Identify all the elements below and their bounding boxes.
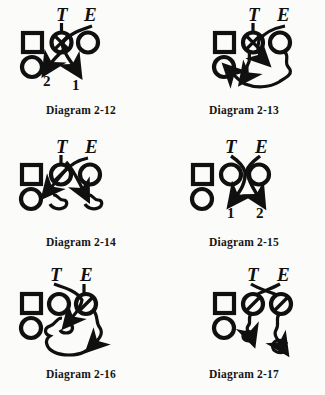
lower-left-circle bbox=[21, 189, 41, 209]
right-slash-circle bbox=[271, 294, 291, 314]
center-circle bbox=[49, 294, 69, 314]
guard-square bbox=[22, 165, 41, 184]
label-T: T bbox=[247, 264, 260, 285]
center-slash-circle bbox=[243, 294, 263, 314]
diagram-2-12: T E 2 1 Diagram 2-12 bbox=[0, 0, 162, 131]
path-E-wavy-outer bbox=[93, 310, 101, 344]
guard-square bbox=[22, 294, 41, 313]
label-T: T bbox=[248, 4, 261, 25]
diagram-2-17-figure: T E bbox=[163, 264, 325, 364]
lower-left-circle bbox=[21, 318, 41, 338]
label-E: E bbox=[276, 4, 290, 25]
label-E: E bbox=[254, 136, 268, 157]
gap-number-2: 2 bbox=[43, 73, 51, 89]
lower-left-circle bbox=[192, 189, 212, 209]
right-circle bbox=[249, 165, 269, 185]
diagram-2-13-caption: Diagram 2-13 bbox=[163, 104, 325, 116]
guard-square bbox=[215, 33, 234, 52]
right-circle bbox=[78, 33, 98, 53]
diagram-2-17: T E Diagram 2-17 bbox=[163, 264, 325, 395]
label-E: E bbox=[84, 136, 98, 157]
label-E: E bbox=[79, 264, 93, 285]
guard-square bbox=[215, 294, 234, 313]
right-circle bbox=[270, 33, 290, 53]
label-T: T bbox=[50, 264, 63, 285]
gap-number-1: 1 bbox=[227, 205, 235, 221]
gap-number-2: 2 bbox=[256, 205, 264, 221]
label-E: E bbox=[83, 4, 97, 25]
diagram-2-15-caption: Diagram 2-15 bbox=[163, 236, 325, 248]
gap-number-1: 1 bbox=[72, 77, 80, 93]
guard-square bbox=[23, 33, 42, 52]
lower-left-circle bbox=[22, 57, 42, 77]
diagram-2-12-figure: T E 2 1 bbox=[0, 0, 162, 100]
label-T: T bbox=[56, 4, 69, 25]
diagram-2-15-figure: T E 1 2 bbox=[163, 132, 325, 232]
diagram-2-13-figure: T E bbox=[163, 0, 325, 100]
diagram-2-12-caption: Diagram 2-12 bbox=[0, 104, 162, 116]
path-T-loop-left bbox=[243, 332, 253, 341]
path-wavy-inner bbox=[60, 322, 73, 333]
diagram-2-16-caption: Diagram 2-16 bbox=[0, 368, 162, 380]
label-T: T bbox=[56, 136, 69, 157]
center-circle bbox=[221, 165, 241, 185]
diagram-2-16: T E Diagram 2-16 bbox=[0, 264, 162, 395]
diagram-2-16-figure: T E bbox=[0, 264, 162, 364]
path-E-wavy-tail bbox=[85, 195, 102, 209]
path-T-wavy-tail bbox=[50, 195, 67, 209]
path-E-to-2 bbox=[247, 156, 260, 198]
diagram-2-14: T E Diagram 2-14 bbox=[0, 132, 162, 263]
diagram-2-15: T E 1 2 Diagram 2-15 bbox=[163, 132, 325, 263]
guard-square bbox=[193, 165, 212, 184]
path-T-to-1 bbox=[231, 156, 245, 198]
label-E: E bbox=[276, 264, 290, 285]
diagram-2-13: T E Diagram 2-13 bbox=[163, 0, 325, 131]
label-T: T bbox=[225, 136, 238, 157]
diagram-sheet: T E 2 1 Diagram 2-12 bbox=[0, 0, 325, 395]
right-circle bbox=[80, 165, 100, 185]
lower-left-circle bbox=[214, 318, 234, 338]
diagram-2-17-caption: Diagram 2-17 bbox=[163, 368, 325, 380]
diagram-2-14-caption: Diagram 2-14 bbox=[0, 236, 162, 248]
path-E-wavy bbox=[246, 50, 250, 76]
diagram-2-14-figure: T E bbox=[0, 132, 162, 232]
